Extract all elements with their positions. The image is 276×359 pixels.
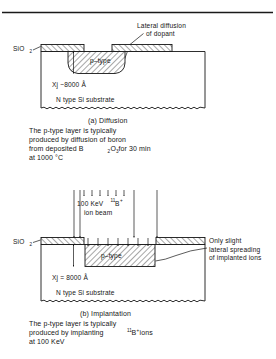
caption-line-b-1: The p-type layer is typically [29, 320, 117, 328]
caption-line-b-2-post: ions [140, 329, 154, 336]
oxide-layer-left-b [41, 238, 84, 245]
caption-line-a-1: The p-type layer is typically [29, 127, 117, 135]
oxide-label-b: SiO [13, 238, 24, 245]
panel-implantation: 100 KeV 11 B + ion beam p–type [13, 190, 262, 345]
oxide-layer-right-b [156, 238, 205, 245]
caption-line-a-4: at 1000 °C [29, 154, 63, 161]
caption-line-b-2: produced by implanting 11 B + ions [29, 328, 153, 338]
oxide-layer-left-a [41, 45, 84, 52]
panel-diffusion: Lateral diffusion of dopant p–type SiO 2 [13, 22, 205, 162]
junction-depth-label-b: Xj = 8000 Å [52, 273, 88, 282]
junction-depth-label-a: Xj ~8000 Å [52, 80, 86, 89]
substrate-label-b: N type Si substrate [56, 289, 115, 297]
ion-beam-energy-label: 100 KeV [77, 200, 104, 207]
substrate-label-a: N type Si substrate [56, 96, 115, 104]
oxide-label-subscript-b: 2 [30, 242, 33, 247]
oxide-label-leader-a [33, 47, 41, 51]
caption-line-a-3-pre: from deposited B [29, 145, 84, 153]
lateral-spreading-leader-line [156, 248, 208, 261]
caption-line-a-3-post: for 30 min [119, 145, 151, 152]
oxide-layer-right-a [112, 45, 172, 52]
lateral-spreading-callout-line2: lateral spreading [209, 246, 260, 254]
oxide-label-subscript-a: 2 [30, 49, 33, 54]
ion-beam-tick-arrows [84, 190, 124, 196]
lateral-spreading-callout-line3: of implanted ions [209, 254, 262, 262]
semiconductor-doping-figure: Lateral diffusion of dopant p–type SiO 2 [0, 0, 276, 359]
oxide-label-leader-b [33, 240, 41, 243]
ion-beam-label: 100 KeV 11 B + ion beam [77, 198, 123, 216]
substrate-bottom-wavy-edge-a [41, 107, 205, 109]
substrate-bottom-wavy-edge-b [41, 300, 205, 302]
figure-root: Lateral diffusion of dopant p–type SiO 2 [0, 0, 276, 359]
lateral-diffusion-callout-line1: Lateral diffusion [137, 22, 186, 29]
ion-beam-label-line2: ion beam [84, 209, 113, 216]
p-type-label-b: p–type [101, 252, 122, 260]
caption-title-b: (b) Implantation [80, 310, 131, 318]
oxide-label-a: SiO [13, 45, 24, 52]
ion-beam-charge-superscript: + [120, 198, 123, 203]
caption-line-a-2: produced by diffusion of boron [29, 136, 126, 144]
caption-line-b-3: at 100 KeV [29, 338, 65, 345]
p-type-label-a: p–type [90, 57, 111, 65]
lateral-spreading-callout-line1: Only slight [209, 237, 241, 245]
caption-line-b-2-pre: produced by implanting [29, 329, 104, 337]
lateral-diffusion-callout-line2: of dopant [146, 30, 175, 38]
caption-line-a-3: from deposited B 2 O 3 for 30 min [29, 145, 151, 154]
caption-title-a: (a) Diffusion [88, 117, 128, 125]
